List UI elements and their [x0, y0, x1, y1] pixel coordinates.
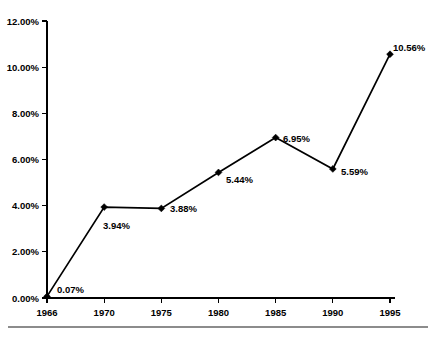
x-tick-label-1985: 1985 [265, 307, 287, 318]
data-label-1966: 0.07% [57, 284, 84, 295]
y-tick-label-8: 8.00% [12, 108, 39, 119]
x-tick-label-1970: 1970 [94, 307, 115, 318]
data-label-1975: 3.88% [170, 203, 197, 214]
y-tick-label-6: 6.00% [12, 154, 39, 165]
y-tick-label-0: 0.00% [12, 293, 39, 304]
y-tick-label-2: 2.00% [12, 246, 39, 257]
x-axis-tick-labels: 1966 1970 1975 1980 1985 1990 1995 [36, 307, 401, 318]
y-axis-ticks [42, 21, 47, 298]
x-tick-label-1990: 1990 [322, 307, 343, 318]
y-tick-label-4: 4.00% [12, 200, 39, 211]
y-tick-label-12: 12.00% [7, 16, 40, 27]
data-label-1995: 10.56% [393, 42, 426, 53]
y-tick-label-10: 10.00% [7, 62, 40, 73]
x-axis-ticks [47, 298, 390, 303]
data-label-1985: 6.95% [283, 133, 310, 144]
y-axis-tick-labels: 12.00% 10.00% 8.00% 6.00% 4.00% 2.00% 0.… [7, 16, 40, 304]
x-tick-label-1980: 1980 [208, 307, 229, 318]
data-label-1970: 3.94% [103, 220, 130, 231]
data-point-marker-1990 [329, 166, 336, 173]
x-tick-label-1975: 1975 [151, 307, 173, 318]
chart-canvas: 12.00% 10.00% 8.00% 6.00% 4.00% 2.00% 0.… [0, 0, 434, 338]
data-label-1980: 5.44% [226, 174, 253, 185]
data-point-labels: 0.07% 3.94% 3.88% 5.44% 6.95% 5.59% 10.5… [57, 42, 426, 295]
x-tick-label-1966: 1966 [36, 307, 57, 318]
x-tick-label-1995: 1995 [379, 307, 401, 318]
line-chart: 12.00% 10.00% 8.00% 6.00% 4.00% 2.00% 0.… [0, 0, 434, 338]
data-label-1990: 5.59% [341, 166, 368, 177]
